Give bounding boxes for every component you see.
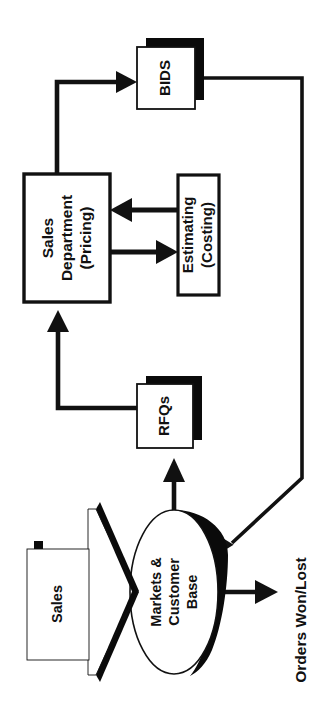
edge-sales-dept-to-estimating xyxy=(110,240,178,264)
sales-department-label-line3: (Pricing) xyxy=(77,207,94,270)
arrowhead-icon xyxy=(163,458,185,482)
edge-markets-to-rfqs xyxy=(163,458,185,515)
diagram-canvas: BIDS Sales Department (Pricing) Estimati… xyxy=(0,0,333,720)
arrowhead-icon xyxy=(116,71,137,93)
estimating-label-line1: Estimating xyxy=(179,197,196,274)
edge-markets-to-orders xyxy=(218,580,278,604)
edge-sales-dept-to-bids xyxy=(57,71,137,174)
node-bids[interactable]: BIDS xyxy=(137,38,204,109)
markets-label-line3: Base xyxy=(184,575,200,610)
sales-callout-label: Sales xyxy=(49,585,65,623)
node-sales-department[interactable]: Sales Department (Pricing) xyxy=(24,174,110,302)
markets-label-line2: Customer xyxy=(166,558,182,626)
orders-won-lost-label: Orders Won/Lost xyxy=(292,557,309,682)
node-markets-customer-base[interactable]: Markets & Customer Base xyxy=(130,510,228,676)
markets-label-line1: Markets & xyxy=(148,557,164,627)
arrowhead-icon xyxy=(255,580,278,604)
arrowhead-icon xyxy=(110,198,132,222)
edge-bids-to-markets xyxy=(196,78,302,557)
rfqs-label: RFQs xyxy=(155,396,172,436)
sales-department-label-line1: Sales xyxy=(39,218,56,259)
node-rfqs[interactable]: RFQs xyxy=(137,376,202,448)
bids-label: BIDS xyxy=(156,60,173,96)
flowchart-svg: BIDS Sales Department (Pricing) Estimati… xyxy=(0,0,333,720)
arrowhead-icon xyxy=(156,240,178,264)
node-estimating[interactable]: Estimating (Costing) xyxy=(178,175,219,295)
estimating-label-line2: (Costing) xyxy=(198,202,215,268)
sales-department-label-line2: Department xyxy=(58,195,75,281)
edge-rfqs-to-sales-dept xyxy=(47,310,137,408)
arrowhead-icon xyxy=(47,310,69,332)
node-sales-callout[interactable]: Sales xyxy=(27,541,89,660)
edge-estimating-to-sales-dept xyxy=(110,198,178,222)
